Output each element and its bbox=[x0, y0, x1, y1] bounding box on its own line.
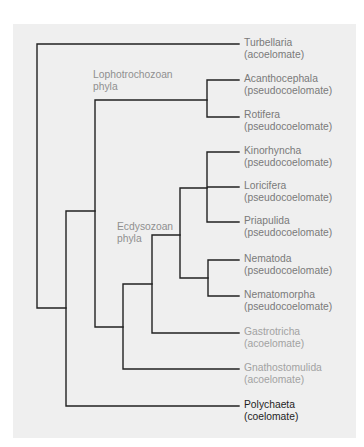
taxon-gnathostomulida: Gnathostomulida (acoelomate) bbox=[244, 362, 322, 386]
taxon-gastrotricha: Gastrotricha (acoelomate) bbox=[244, 326, 304, 350]
taxon-acanthocephala: Acanthocephala (pseudocoelomate) bbox=[244, 73, 332, 97]
taxon-nematomorpha: Nematomorpha (pseudocoelomate) bbox=[244, 289, 332, 313]
group-label-ecdysozoan: Ecdysozoan phyla bbox=[117, 221, 173, 245]
taxon-polychaeta: Polychaeta (coelomate) bbox=[244, 399, 298, 423]
branch-scalidophora bbox=[207, 152, 239, 222]
branch-lopho-node bbox=[95, 100, 207, 327]
taxon-kinorhyncha: Kinorhyncha (pseudocoelomate) bbox=[244, 145, 332, 169]
branch-ecdyso-node bbox=[180, 188, 208, 278]
taxon-nematoda: Nematoda (pseudocoelomate) bbox=[244, 253, 332, 277]
taxon-priapulida: Priapulida (pseudocoelomate) bbox=[244, 215, 332, 239]
taxon-rotifera: Rotifera (pseudocoelomate) bbox=[244, 109, 332, 133]
branch-gastro-node bbox=[152, 235, 239, 333]
group-label-lophotrochozoan: Lophotrochozoan phyla bbox=[93, 69, 173, 93]
branch-gnatho-node bbox=[123, 284, 239, 369]
taxon-turbellaria: Turbellaria (acoelomate) bbox=[244, 37, 304, 61]
taxon-loricifera: Loricifera (pseudocoelomate) bbox=[244, 180, 332, 204]
branch-nematoids bbox=[208, 260, 239, 296]
branch-acantho-rotifera bbox=[207, 80, 239, 117]
